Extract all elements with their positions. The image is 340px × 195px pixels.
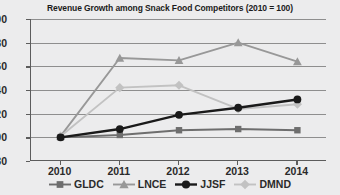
y-axis-label-100: 100 xyxy=(0,131,7,143)
x-axis-tick-2013 xyxy=(237,161,238,165)
y-axis-label-180: 180 xyxy=(0,37,7,49)
y-axis-label-80: 80 xyxy=(0,155,7,167)
x-axis-tick-2014 xyxy=(296,161,297,165)
y-axis-label-140: 140 xyxy=(0,84,7,96)
data-point-jjsf-2014 xyxy=(294,96,302,104)
series-layer xyxy=(31,19,327,161)
data-point-jjsf-2011 xyxy=(116,125,124,133)
chart-title: Revenue Growth among Snack Food Competit… xyxy=(0,3,340,13)
x-axis-label-2011: 2011 xyxy=(107,165,130,177)
x-axis-label-2010: 2010 xyxy=(48,165,71,177)
y-axis-tick-200 xyxy=(26,19,30,20)
x-axis-label-2014: 2014 xyxy=(285,165,308,177)
legend-marker-triangle-icon xyxy=(113,179,135,190)
x-axis-tick-2011 xyxy=(119,161,120,165)
legend-item-gldc[interactable]: GLDC xyxy=(49,178,104,190)
y-axis-tick-160 xyxy=(26,66,30,67)
y-axis-tick-100 xyxy=(26,137,30,138)
chart-container: Revenue Growth among Snack Food Competit… xyxy=(0,0,340,195)
y-axis-tick-120 xyxy=(26,114,30,115)
y-axis-label-160: 160 xyxy=(0,60,7,72)
legend-label-jjsf: JJSF xyxy=(200,178,225,190)
data-point-dmnd-2012 xyxy=(174,81,183,90)
legend-marker-square-icon xyxy=(49,179,71,190)
x-axis-tick-2010 xyxy=(60,161,61,165)
data-point-jjsf-2013 xyxy=(234,104,242,112)
legend-marker-circle-icon xyxy=(175,179,197,190)
legend-marker-diamond-icon xyxy=(234,179,256,190)
legend-item-dmnd[interactable]: DMND xyxy=(234,178,291,190)
series-jjsf xyxy=(57,96,302,142)
legend-item-lnce[interactable]: LNCE xyxy=(113,178,167,190)
y-axis-tick-140 xyxy=(26,90,30,91)
data-point-jjsf-2012 xyxy=(175,111,183,119)
data-point-gldc-2012 xyxy=(176,127,182,133)
data-point-jjsf-2010 xyxy=(57,133,65,141)
y-axis-tick-180 xyxy=(26,43,30,44)
y-axis-label-200: 200 xyxy=(0,13,7,25)
y-axis-label-120: 120 xyxy=(0,108,7,120)
x-axis-label-2012: 2012 xyxy=(166,165,189,177)
y-axis-tick-80 xyxy=(26,161,30,162)
data-point-gldc-2014 xyxy=(294,127,300,133)
x-axis-label-2013: 2013 xyxy=(226,165,249,177)
legend-label-gldc: GLDC xyxy=(74,178,104,190)
legend-label-dmnd: DMND xyxy=(259,178,291,190)
legend-label-lnce: LNCE xyxy=(138,178,167,190)
legend-item-jjsf[interactable]: JJSF xyxy=(175,178,225,190)
x-axis-tick-2012 xyxy=(178,161,179,165)
data-point-gldc-2013 xyxy=(235,126,241,132)
chart-legend: GLDCLNCEJJSFDMND xyxy=(0,178,340,190)
plot-area xyxy=(30,19,326,161)
data-point-lnce-2013 xyxy=(234,38,243,46)
